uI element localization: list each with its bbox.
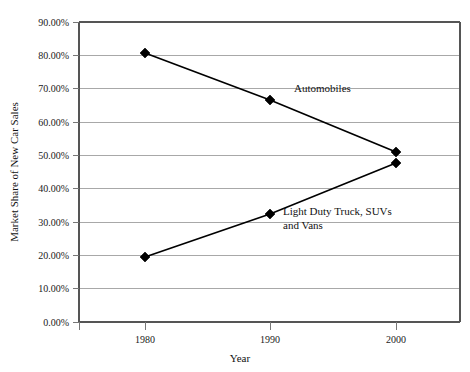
xtick-label-1980: 1980 <box>135 334 155 345</box>
x-axis-title: Year <box>230 352 251 364</box>
ytick-label-0: 0.00% <box>43 317 69 328</box>
ytick-label-50: 50.00% <box>38 150 69 161</box>
ytick-label-40: 40.00% <box>38 183 69 194</box>
ytick-label-80: 80.00% <box>38 50 69 61</box>
ytick-label-20: 20.00% <box>38 250 69 261</box>
datapoint-trucks-1990 <box>265 209 275 219</box>
ytick-label-60: 60.00% <box>38 117 69 128</box>
series-label-trucks-line2: and Vans <box>283 219 323 231</box>
datapoint-automobiles-1990 <box>265 95 275 105</box>
x-axis-tickmarks <box>145 322 396 330</box>
datapoint-trucks-1980 <box>140 252 150 262</box>
ytick-label-90: 90.00% <box>38 17 69 28</box>
ytick-label-70: 70.00% <box>38 83 69 94</box>
plot-frame <box>79 22 460 322</box>
series-automobiles <box>140 48 401 157</box>
gridlines <box>79 55 460 288</box>
datapoint-automobiles-1980 <box>140 48 150 58</box>
line-chart: 90.00% 80.00% 70.00% 60.00% 50.00% 40.00… <box>0 0 470 372</box>
y-axis-tickmarks <box>73 22 79 330</box>
ytick-label-10: 10.00% <box>38 283 69 294</box>
x-axis-tick-labels: 1980 1990 2000 <box>135 334 406 345</box>
series-label-automobiles: Automobiles <box>294 82 351 94</box>
y-axis-tick-labels: 90.00% 80.00% 70.00% 60.00% 50.00% 40.00… <box>38 17 69 328</box>
xtick-label-1990: 1990 <box>260 334 280 345</box>
datapoint-trucks-2000 <box>391 158 401 168</box>
y-axis-title: Market Share of New Car Sales <box>8 102 20 242</box>
xtick-label-2000: 2000 <box>386 334 406 345</box>
series-label-trucks-line1: Light Duty Truck, SUVs <box>283 205 392 217</box>
ytick-label-30: 30.00% <box>38 217 69 228</box>
chart-container: 90.00% 80.00% 70.00% 60.00% 50.00% 40.00… <box>0 0 470 372</box>
